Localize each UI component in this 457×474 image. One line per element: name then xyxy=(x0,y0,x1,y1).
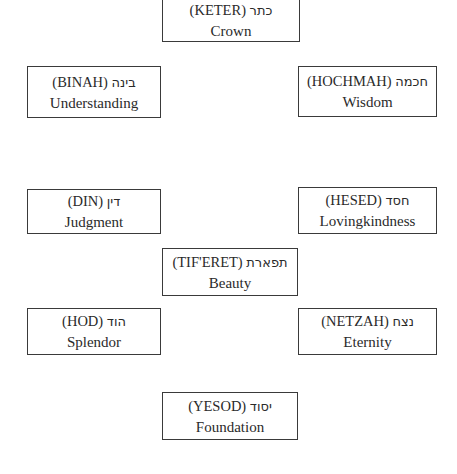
transliteration: (TIF'ERET) xyxy=(172,254,242,270)
transliteration: (NETZAH) xyxy=(321,313,389,329)
transliteration: (DIN) xyxy=(68,193,103,209)
node-yesod: (YESOD) יסוד Foundation xyxy=(162,392,298,440)
node-tiferet: (TIF'ERET) תפארת Beauty xyxy=(162,248,298,296)
hebrew-name: יסוד xyxy=(250,399,272,414)
transliteration: (YESOD) xyxy=(188,398,246,414)
hebrew-name: חכמה xyxy=(395,74,428,89)
hebrew-name: כתר xyxy=(250,3,273,18)
node-din-title: (DIN) דין xyxy=(68,191,121,212)
hebrew-name: נצח xyxy=(392,314,413,329)
node-hochmah: (HOCHMAH) חכמה Wisdom xyxy=(298,66,437,117)
node-netzah-title: (NETZAH) נצח xyxy=(321,311,414,332)
node-din: (DIN) דין Judgment xyxy=(27,189,161,234)
hebrew-name: הוד xyxy=(107,314,126,329)
node-keter: (KETER) כתר Crown xyxy=(162,0,300,42)
node-netzah: (NETZAH) נצח Eternity xyxy=(298,308,437,355)
hebrew-name: חסד xyxy=(385,193,409,208)
node-binah: (BINAH) בינה Understanding xyxy=(27,66,161,118)
transliteration: (BINAH) xyxy=(52,74,108,90)
node-tiferet-title: (TIF'ERET) תפארת xyxy=(172,252,287,273)
english-name: Lovingkindness xyxy=(320,211,416,231)
english-name: Wisdom xyxy=(342,92,392,112)
hebrew-name: דין xyxy=(107,194,121,209)
english-name: Judgment xyxy=(65,212,123,232)
hebrew-name: בינה xyxy=(112,75,136,90)
transliteration: (HOCHMAH) xyxy=(307,73,392,89)
node-hod: (HOD) הוד Splendor xyxy=(27,308,161,355)
node-hesed: (HESED) חסד Lovingkindness xyxy=(298,187,437,234)
node-hod-title: (HOD) הוד xyxy=(62,311,126,332)
node-hesed-title: (HESED) חסד xyxy=(325,190,409,211)
english-name: Beauty xyxy=(209,273,252,293)
english-name: Understanding xyxy=(50,93,138,113)
transliteration: (HOD) xyxy=(62,313,103,329)
node-keter-title: (KETER) כתר xyxy=(190,0,273,21)
english-name: Splendor xyxy=(67,332,121,352)
node-yesod-title: (YESOD) יסוד xyxy=(188,396,272,417)
english-name: Foundation xyxy=(196,417,264,437)
transliteration: (KETER) xyxy=(190,2,246,18)
node-hochmah-title: (HOCHMAH) חכמה xyxy=(307,71,428,92)
node-binah-title: (BINAH) בינה xyxy=(52,72,135,93)
transliteration: (HESED) xyxy=(325,192,381,208)
english-name: Eternity xyxy=(343,332,391,352)
hebrew-name: תפארת xyxy=(246,255,287,270)
english-name: Crown xyxy=(211,21,252,41)
